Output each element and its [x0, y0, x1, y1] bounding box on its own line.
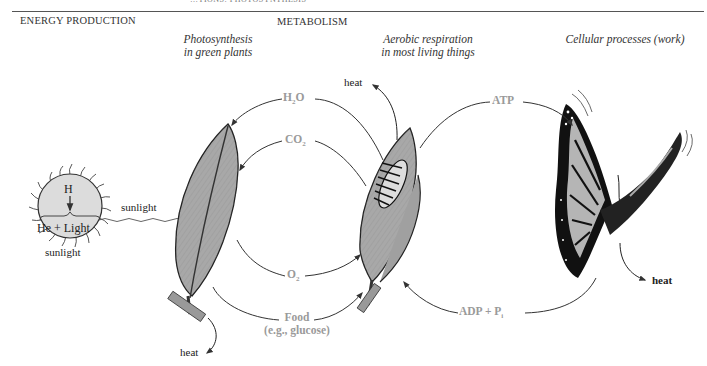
respiration-heat-label: heat [344, 76, 362, 88]
leaf-with-chrysalis-icon [357, 128, 420, 313]
sun-hydrogen-label: H [64, 182, 73, 197]
atp-arrow-left [420, 102, 490, 148]
atp-label: ATP [492, 94, 514, 106]
metabolism-diagram [0, 0, 707, 366]
green-leaf-icon [168, 124, 238, 322]
food-label: Food (e.g., glucose) [256, 311, 338, 337]
adp-label: ADP + Pi [459, 305, 503, 320]
sun-caption: sunlight [45, 246, 80, 258]
h2o-tail: O [295, 91, 304, 103]
sun-helium-light-label: He + Light [37, 221, 90, 236]
h2o-arrow-right [315, 99, 383, 160]
adp-base: ADP + P [459, 305, 501, 317]
h2o-arrow-left [232, 99, 282, 125]
food-label-line2: (e.g., glucose) [256, 324, 338, 337]
o2-subscript: 2 [296, 275, 300, 283]
co2-arrow-right [315, 141, 366, 186]
respiration-heat-arrow [373, 85, 397, 140]
co2-arrow-left [240, 141, 282, 170]
butterfly-heat-label: heat [652, 274, 672, 286]
o2-label: O2 [287, 268, 299, 283]
butterfly-icon [555, 90, 692, 278]
o2-base: O [287, 268, 296, 280]
h2o-base: H [283, 91, 292, 103]
h2o-label: H2O [283, 91, 304, 106]
co2-subscript: 2 [302, 140, 306, 148]
co2-label: CO2 [285, 133, 306, 148]
butterfly-heat-arrow [620, 243, 645, 280]
co2-base: CO [285, 133, 302, 145]
adp-arrow-left [404, 282, 458, 313]
sunlight-arrow-label: sunlight [121, 201, 156, 213]
adp-arrow-right [525, 278, 596, 313]
plant-heat-arrow [207, 318, 216, 353]
plant-heat-label: heat [180, 346, 198, 358]
food-label-line1: Food [256, 311, 338, 324]
o2-arrow-left [237, 240, 285, 276]
adp-subscript: i [501, 312, 503, 320]
o2-arrow-right [305, 255, 360, 276]
